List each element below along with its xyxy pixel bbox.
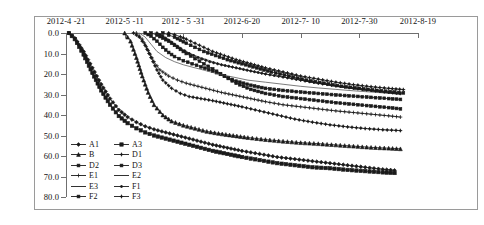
line-icon [113,171,130,180]
legend-item-d1[interactable]: D1 [113,150,156,159]
legend-label: D2 [89,161,99,170]
chart-legend: A1A3BD1D2D3E1E2E3F1F2F3 [70,139,156,202]
legend-label: E3 [89,182,98,191]
square-small-icon [70,161,87,170]
legend-item-e1[interactable]: E1 [70,171,113,180]
legend-item-f2[interactable]: F2 [70,192,113,201]
legend-item-f1[interactable]: F1 [113,182,156,191]
series-f3 [167,31,405,91]
legend-label: D1 [132,150,142,159]
legend-label: A1 [89,140,99,149]
cross-icon [113,192,130,201]
legend-label: A3 [132,140,142,149]
legend-label: F1 [132,182,141,191]
legend-item-d2[interactable]: D2 [70,161,113,170]
series-e2 [139,33,400,94]
square-filled-icon [113,161,130,170]
cross-dot-icon [113,150,130,159]
legend-item-e2[interactable]: E2 [113,171,156,180]
triangle-icon [70,150,87,159]
legend-item-d3[interactable]: D3 [113,161,156,170]
legend-item-f3[interactable]: F3 [113,192,156,201]
line-icon [70,182,87,191]
chart-figure: 2012-4 -212012-5 -112012 - 5 -312012-6-2… [0,0,484,225]
plus-icon [70,171,87,180]
legend-label: D3 [132,161,142,170]
legend-item-b[interactable]: B [70,150,113,159]
legend-label: F2 [89,192,98,201]
legend-item-e3[interactable]: E3 [70,182,113,191]
legend-item-a3[interactable]: A3 [113,140,156,149]
square-dot-icon [70,192,87,201]
diamond-icon [70,140,87,149]
legend-label: B [89,150,94,159]
legend-label: F3 [132,192,141,201]
legend-label: E1 [89,171,98,180]
diamond-small-icon [113,182,130,191]
legend-item-a1[interactable]: A1 [70,140,113,149]
legend-label: E2 [132,171,141,180]
series-d1 [132,31,403,132]
square-icon [113,140,130,149]
